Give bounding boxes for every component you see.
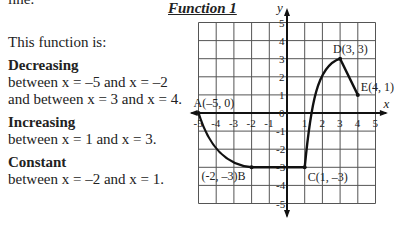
point-e-label: E(4, 1)	[361, 80, 394, 94]
y-tick-label: 3	[279, 53, 285, 65]
point-a-marker	[197, 111, 201, 115]
x-tick-label: 2	[319, 117, 325, 129]
y-tick-label: -1	[276, 125, 285, 137]
x-tick-label: -3	[229, 117, 239, 129]
y-axis-arrow-up-icon	[284, 8, 290, 16]
function-graph: xy-5-4-3-2-112345543210-1-2-3-4-5A(–5, 0…	[0, 0, 397, 226]
y-tick-label: -2	[276, 143, 285, 155]
point-d-marker	[338, 57, 342, 61]
y-tick-label: -4	[276, 179, 286, 191]
point-b-label: (-2, –3)B	[202, 169, 246, 183]
x-tick-label: -4	[211, 117, 221, 129]
x-tick-label: 5	[373, 117, 379, 129]
x-tick-label: 3	[337, 117, 343, 129]
point-a-label: A(–5, 0)	[194, 96, 235, 110]
point-e-marker	[356, 93, 360, 97]
point-d-label: D(3, 3)	[333, 42, 368, 56]
point-c-marker	[303, 165, 307, 169]
y-tick-label: 4	[279, 35, 285, 47]
point-b-marker	[250, 165, 254, 169]
y-axis-label: y	[275, 0, 283, 15]
x-tick-label: 1	[302, 117, 308, 129]
x-axis-label: x	[382, 96, 389, 111]
point-c-label: C(1, –3)	[308, 170, 348, 184]
x-tick-label: 4	[355, 117, 361, 129]
y-tick-label: 2	[279, 71, 285, 83]
x-tick-label: -2	[247, 117, 256, 129]
x-axis-arrow-left-icon	[190, 110, 198, 116]
y-axis-arrow-down-icon	[284, 210, 290, 218]
y-tick-label: 1	[279, 89, 285, 101]
y-tick-label: 0	[279, 107, 285, 119]
y-tick-label: 5	[279, 17, 285, 29]
y-tick-label: -5	[276, 198, 286, 210]
x-tick-label: -1	[264, 117, 273, 129]
